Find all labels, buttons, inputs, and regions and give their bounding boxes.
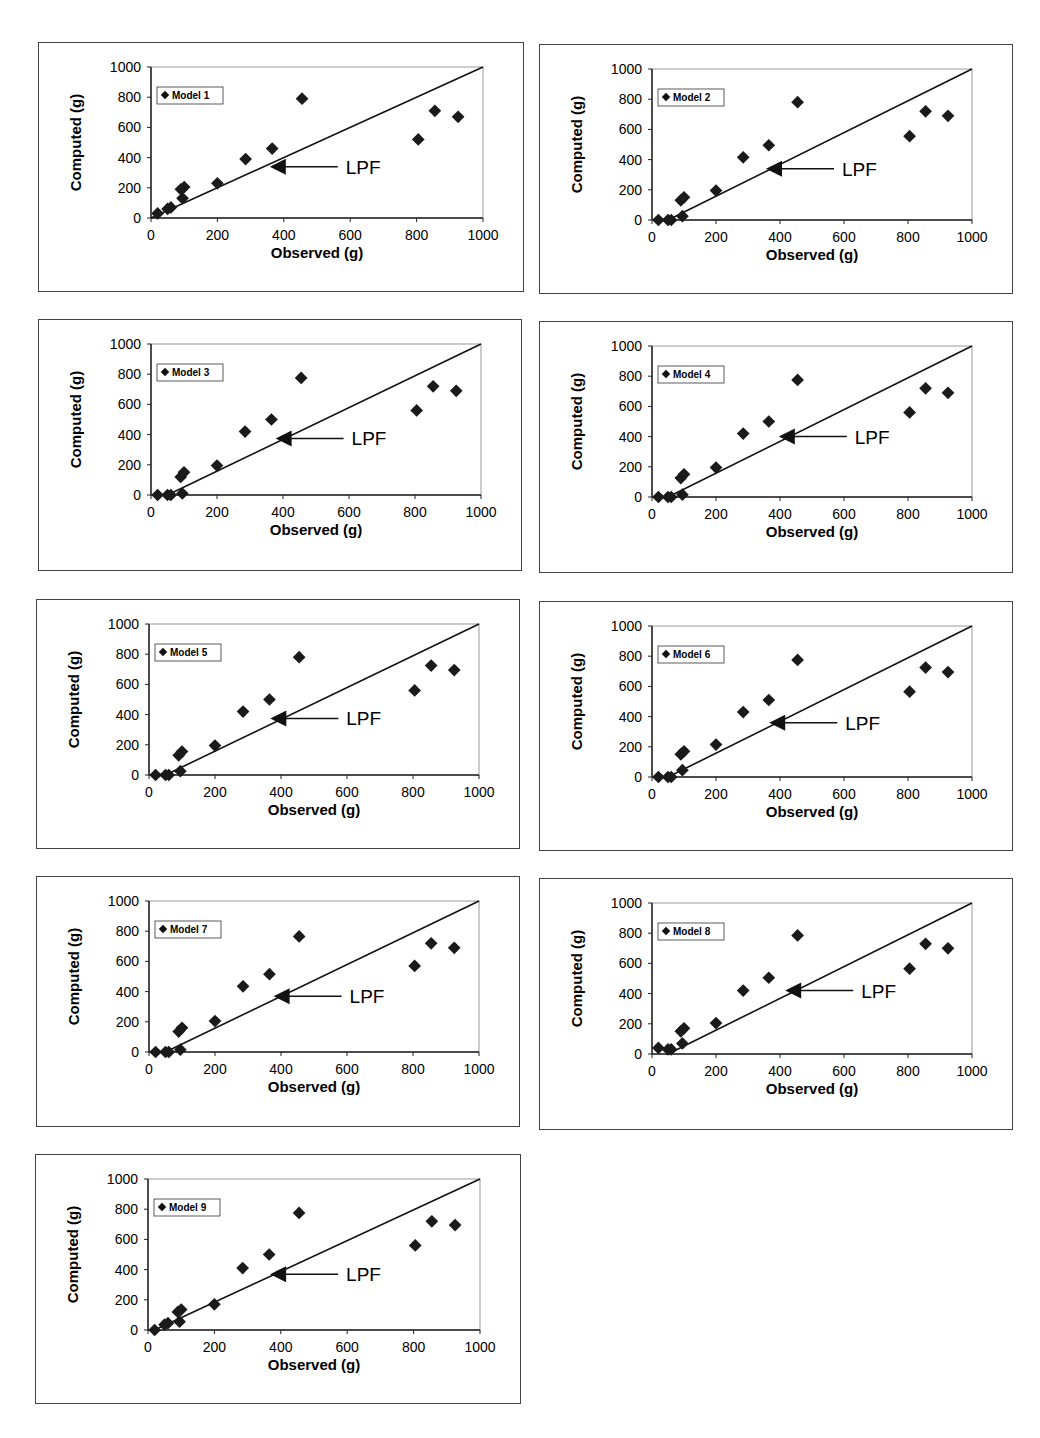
y-tick-label: 400 bbox=[118, 427, 142, 443]
y-axis-title: Computed (g) bbox=[568, 373, 585, 470]
x-tick-label: 600 bbox=[832, 229, 856, 245]
x-axis-title: Observed (g) bbox=[268, 1356, 361, 1373]
chart-panel-8: 0020020040040060060080080010001000Observ… bbox=[539, 878, 1013, 1130]
data-point bbox=[263, 693, 276, 706]
arrow-head-icon bbox=[779, 429, 795, 445]
lpf-annotation: LPF bbox=[270, 708, 381, 729]
chart-panel-1: 0020020040040060060080080010001000Observ… bbox=[38, 42, 524, 292]
lpf-label: LPF bbox=[346, 708, 381, 729]
data-point bbox=[448, 941, 461, 954]
legend: Model 4 bbox=[658, 366, 724, 383]
x-axis-title: Observed (g) bbox=[766, 523, 859, 540]
legend: Model 8 bbox=[658, 923, 724, 940]
data-point bbox=[408, 684, 421, 697]
lpf-label: LPF bbox=[855, 427, 890, 448]
data-point bbox=[295, 372, 308, 385]
arrow-head-icon bbox=[766, 161, 782, 177]
data-point bbox=[676, 488, 689, 501]
x-tick-label: 800 bbox=[896, 506, 920, 522]
x-tick-label: 200 bbox=[704, 229, 728, 245]
scatter-chart: 0020020040040060060080080010001000Observ… bbox=[37, 600, 521, 850]
x-tick-label: 400 bbox=[271, 504, 295, 520]
x-tick-label: 400 bbox=[269, 1061, 293, 1077]
x-tick-label: 200 bbox=[704, 506, 728, 522]
y-tick-label: 800 bbox=[116, 646, 140, 662]
x-axis-title: Observed (g) bbox=[766, 246, 859, 263]
arrow-head-icon bbox=[276, 430, 292, 446]
y-tick-label: 800 bbox=[116, 923, 140, 939]
y-tick-label: 200 bbox=[619, 459, 643, 475]
data-point bbox=[450, 384, 463, 397]
data-point bbox=[428, 104, 441, 117]
x-tick-label: 600 bbox=[832, 786, 856, 802]
x-tick-label: 0 bbox=[147, 227, 155, 243]
data-point bbox=[408, 960, 421, 973]
data-point bbox=[942, 942, 955, 955]
data-point bbox=[676, 1037, 689, 1050]
legend-label: Model 4 bbox=[673, 369, 711, 380]
y-tick-label: 600 bbox=[118, 119, 142, 135]
data-point bbox=[211, 177, 224, 190]
data-point bbox=[652, 1042, 665, 1055]
data-point bbox=[425, 937, 438, 950]
data-point bbox=[737, 984, 750, 997]
y-axis-title: Computed (g) bbox=[568, 653, 585, 750]
x-tick-label: 1000 bbox=[956, 1063, 987, 1079]
lpf-annotation: LPF bbox=[276, 428, 387, 449]
arrow-head-icon bbox=[769, 715, 785, 731]
x-tick-label: 200 bbox=[206, 227, 230, 243]
x-tick-label: 800 bbox=[896, 786, 920, 802]
data-point bbox=[737, 706, 750, 719]
y-tick-label: 1000 bbox=[611, 338, 642, 354]
y-tick-label: 600 bbox=[619, 121, 643, 137]
x-tick-label: 1000 bbox=[956, 786, 987, 802]
y-tick-label: 0 bbox=[133, 487, 141, 503]
x-tick-label: 400 bbox=[768, 506, 792, 522]
lpf-annotation: LPF bbox=[274, 986, 385, 1007]
x-axis-title: Observed (g) bbox=[766, 1080, 859, 1097]
x-tick-label: 0 bbox=[145, 1061, 153, 1077]
y-axis-title: Computed (g) bbox=[568, 930, 585, 1027]
data-point bbox=[903, 962, 916, 975]
y-tick-label: 200 bbox=[619, 1016, 643, 1032]
y-tick-label: 1000 bbox=[108, 616, 139, 632]
lpf-annotation: LPF bbox=[270, 157, 381, 178]
chart-panel-2: 0020020040040060060080080010001000Observ… bbox=[539, 44, 1013, 294]
chart-panel-5: 0020020040040060060080080010001000Observ… bbox=[36, 599, 520, 849]
y-tick-label: 1000 bbox=[611, 61, 642, 77]
y-tick-label: 1000 bbox=[611, 895, 642, 911]
y-tick-label: 0 bbox=[634, 1046, 642, 1062]
x-tick-label: 400 bbox=[269, 1339, 293, 1355]
lpf-label: LPF bbox=[346, 157, 381, 178]
lpf-annotation: LPF bbox=[270, 1264, 381, 1285]
legend: Model 5 bbox=[155, 644, 221, 661]
x-tick-label: 0 bbox=[648, 229, 656, 245]
legend: Model 7 bbox=[155, 921, 221, 938]
y-tick-label: 0 bbox=[634, 769, 642, 785]
scatter-chart: 0020020040040060060080080010001000Observ… bbox=[39, 320, 523, 572]
data-point bbox=[710, 461, 723, 474]
data-point bbox=[427, 380, 440, 393]
y-axis-title: Computed (g) bbox=[568, 96, 585, 193]
data-point bbox=[263, 1248, 276, 1261]
data-point bbox=[710, 184, 723, 197]
y-tick-label: 200 bbox=[116, 1014, 140, 1030]
y-axis-title: Computed (g) bbox=[64, 1206, 81, 1303]
data-point bbox=[209, 739, 222, 752]
lpf-annotation: LPF bbox=[769, 713, 880, 734]
lpf-label: LPF bbox=[861, 981, 896, 1002]
y-axis-title: Computed (g) bbox=[65, 651, 82, 748]
y-tick-label: 1000 bbox=[611, 618, 642, 634]
arrow-head-icon bbox=[785, 983, 801, 999]
x-tick-label: 800 bbox=[401, 784, 425, 800]
y-tick-label: 800 bbox=[619, 925, 643, 941]
data-point bbox=[176, 487, 189, 500]
y-tick-label: 1000 bbox=[108, 893, 139, 909]
data-point bbox=[942, 386, 955, 399]
y-tick-label: 400 bbox=[116, 707, 140, 723]
y-tick-label: 0 bbox=[131, 1044, 139, 1060]
data-point bbox=[942, 109, 955, 122]
data-point bbox=[762, 694, 775, 707]
legend-label: Model 1 bbox=[172, 90, 210, 101]
lpf-annotation: LPF bbox=[779, 427, 890, 448]
